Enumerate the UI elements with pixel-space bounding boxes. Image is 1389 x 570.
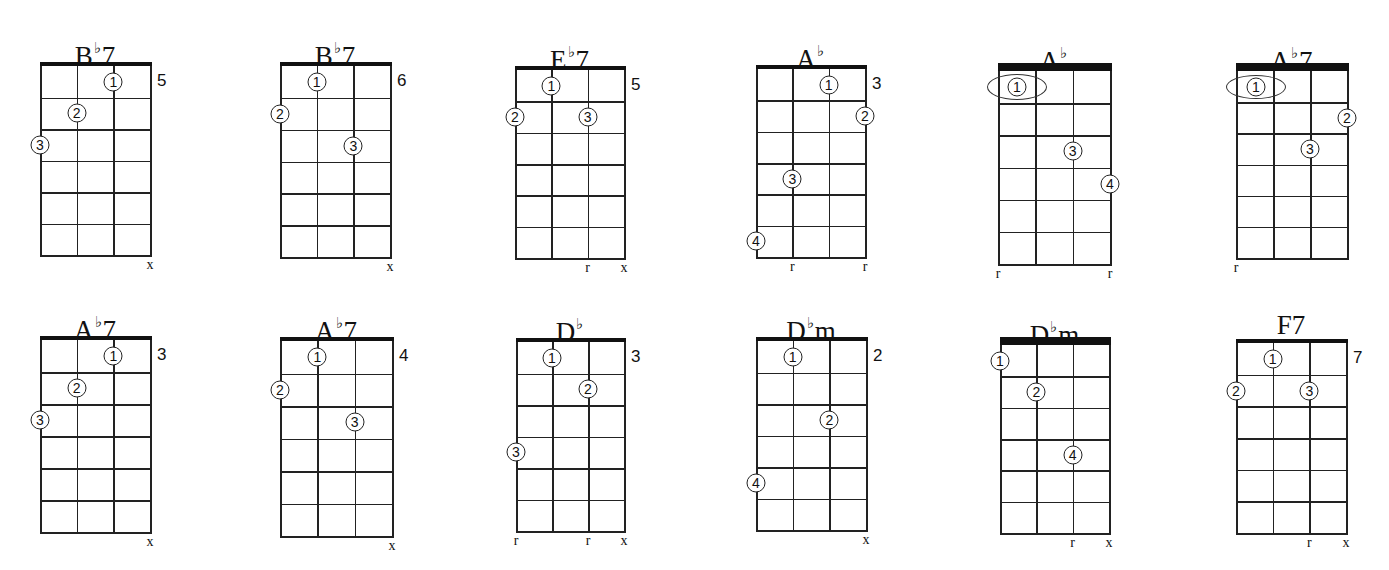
finger-2-icon: 2 — [271, 380, 290, 399]
finger-1-icon: 1 — [308, 348, 327, 367]
finger-4-icon: 4 — [1063, 445, 1082, 464]
fret-line — [998, 168, 1112, 170]
fret-position-label: 4 — [399, 347, 408, 364]
fret-line — [515, 164, 626, 166]
fret-line — [1236, 227, 1349, 229]
flat-symbol-icon: ♭ — [807, 315, 814, 331]
flat-symbol-icon: ♭ — [1060, 45, 1067, 61]
fret-line — [1236, 133, 1349, 135]
fret-line — [756, 404, 868, 406]
root-string-marker: r — [863, 260, 868, 274]
finger-1-icon: 1 — [1263, 349, 1282, 368]
finger-2-icon: 2 — [1227, 381, 1246, 400]
finger-2-icon: 2 — [820, 410, 839, 429]
fret-line — [516, 405, 626, 407]
muted-string-marker: x — [387, 260, 394, 274]
finger-1-icon: 1 — [543, 348, 562, 367]
chord-root: A — [1040, 46, 1060, 76]
flat-symbol-icon: ♭ — [334, 40, 341, 56]
finger-2-icon: 2 — [579, 380, 598, 399]
chord-root: D — [786, 316, 806, 346]
fret-line — [1000, 470, 1111, 472]
finger-3-icon: 3 — [578, 108, 597, 127]
finger-1-icon: 1 — [819, 75, 838, 94]
nut — [1000, 337, 1111, 345]
muted-string-marker: x — [1106, 536, 1113, 550]
fret-line — [280, 471, 394, 473]
fret-line — [1000, 376, 1111, 378]
fret-line — [40, 98, 152, 100]
chord-root: A — [796, 44, 816, 74]
nut — [40, 336, 152, 340]
finger-1-icon: 1 — [1247, 77, 1266, 96]
fret-line — [998, 200, 1112, 202]
finger-2-icon: 2 — [506, 108, 525, 127]
chord-suffix: 7 — [1292, 310, 1306, 340]
fret-line — [1236, 165, 1349, 167]
fret-line — [1000, 533, 1111, 535]
finger-1-icon: 1 — [307, 72, 326, 91]
fret-line — [280, 257, 392, 259]
nut — [756, 337, 868, 341]
root-string-marker: r — [585, 261, 590, 275]
fret-line — [756, 499, 868, 501]
finger-3-icon: 3 — [31, 411, 50, 430]
fret-line — [756, 226, 867, 228]
nut — [998, 63, 1112, 71]
finger-3-icon: 3 — [783, 169, 802, 188]
finger-1-icon: 1 — [783, 347, 802, 366]
fret-line — [516, 468, 626, 470]
root-string-marker: r — [514, 534, 519, 548]
fret-line — [756, 194, 867, 196]
fret-line — [280, 504, 394, 506]
finger-3-icon: 3 — [1301, 139, 1320, 158]
fret-line — [40, 436, 152, 438]
chord-root: D — [1030, 320, 1050, 350]
fret-line — [756, 163, 867, 165]
fret-line — [1000, 408, 1111, 410]
fret-line — [1236, 258, 1349, 260]
fret-line — [515, 195, 626, 197]
finger-1-icon: 1 — [542, 76, 561, 95]
fret-line — [40, 500, 152, 502]
fret-line — [1236, 438, 1348, 440]
fret-line — [40, 129, 152, 131]
flat-symbol-icon: ♭ — [1291, 45, 1298, 61]
finger-2-icon: 2 — [67, 104, 86, 123]
fret-line — [1236, 501, 1348, 503]
nut — [280, 337, 394, 341]
nut — [1236, 339, 1348, 343]
nut — [1236, 63, 1349, 71]
fret-line — [280, 536, 394, 538]
muted-string-marker: x — [1343, 536, 1350, 550]
muted-string-marker: x — [389, 539, 396, 553]
root-string-marker: r — [586, 534, 591, 548]
fret-line — [516, 500, 626, 502]
root-string-marker: r — [1234, 261, 1239, 275]
finger-2-icon: 2 — [1027, 383, 1046, 402]
finger-4-icon: 4 — [747, 232, 766, 251]
finger-3-icon: 3 — [1063, 142, 1082, 161]
fret-line — [515, 258, 626, 260]
finger-2-icon: 2 — [1338, 108, 1357, 127]
nut — [516, 338, 626, 342]
muted-string-marker: x — [863, 533, 870, 547]
finger-3-icon: 3 — [1300, 381, 1319, 400]
fret-line — [998, 103, 1112, 105]
fret-line — [280, 193, 392, 195]
fret-line — [1236, 406, 1348, 408]
fret-position-label: 7 — [1353, 349, 1362, 366]
fret-line — [998, 135, 1112, 137]
fret-line — [756, 132, 867, 134]
finger-1-icon: 1 — [991, 351, 1010, 370]
fret-line — [1236, 375, 1348, 377]
finger-2-icon: 2 — [271, 104, 290, 123]
finger-2-icon: 2 — [856, 107, 875, 126]
fret-line — [280, 162, 392, 164]
finger-3-icon: 3 — [344, 136, 363, 155]
muted-string-marker: x — [621, 261, 628, 275]
flat-symbol-icon: ♭ — [1050, 319, 1057, 335]
fret-line — [998, 264, 1112, 266]
muted-string-marker: x — [147, 258, 154, 272]
nut — [515, 66, 626, 70]
